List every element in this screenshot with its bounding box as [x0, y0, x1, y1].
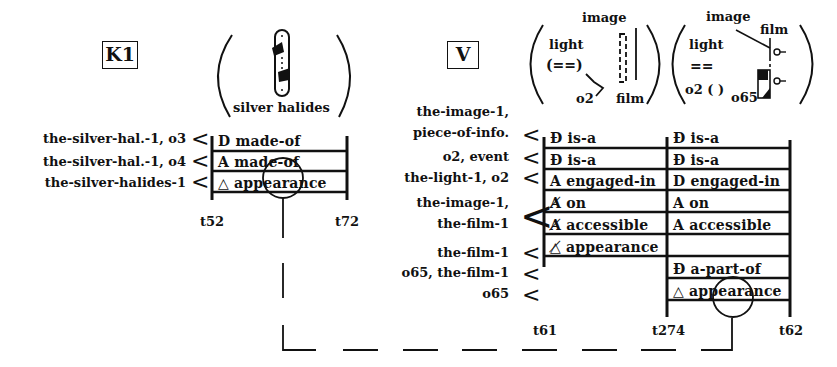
- v-row-label: the-film-1: [437, 216, 509, 231]
- v-row-label: the-light-1, o2: [404, 170, 509, 185]
- v-col2-cell: A on: [673, 195, 709, 211]
- v-link-arrow: <: [522, 244, 540, 262]
- v-link-arrow: <: [522, 265, 540, 283]
- v-row-label: the-image-1,: [416, 195, 509, 210]
- v-pic1-light: light: [549, 37, 583, 52]
- v-row-label: the-film-1: [437, 245, 509, 260]
- v-tick-mid: t274: [652, 323, 685, 338]
- k1-link-arrow: <: [191, 173, 209, 191]
- v-col2-cell: A accessible: [673, 217, 771, 233]
- v-pic1-image: image: [582, 10, 626, 25]
- v-col2-cell: D engaged-in: [673, 173, 780, 189]
- v-col1-cell: A̸ accessible: [550, 217, 648, 233]
- v-pic2-o65: o65: [731, 90, 758, 105]
- v-link-arrow: <: [522, 126, 540, 144]
- k1-link-arrow: <: [191, 152, 209, 170]
- v-col1-cell: △̸ appearance: [550, 239, 659, 255]
- k1-row-label: the-silver-hal.-1, o4: [43, 154, 186, 169]
- v-pic2-beam: ==: [690, 59, 713, 74]
- v-col2-cell: △ appearance: [673, 283, 782, 299]
- k1-cell: A made-of: [218, 154, 299, 170]
- v-row-label: o65: [482, 286, 509, 301]
- v-col1-cell: Ɖ is-a: [550, 152, 596, 168]
- v-col1-cell: A̸ on: [550, 195, 586, 211]
- v-link-arrow-large: <: [520, 198, 554, 234]
- v-pic1-o2: o2: [576, 91, 594, 106]
- v-col2-cell: Ɖ is-a: [673, 130, 719, 146]
- v-row-label: o2, event: [443, 149, 509, 164]
- k1-row-label: the-silver-halides-1: [45, 175, 186, 190]
- v-pic2-image: image: [706, 9, 750, 24]
- v-pic1-film: film: [616, 91, 644, 106]
- v-pic1-beam: (==): [546, 58, 583, 73]
- k1-tick-start: t52: [200, 214, 224, 229]
- k1-tick-end: t72: [335, 214, 359, 229]
- v-col1-cell: Ɖ is-a: [550, 130, 596, 146]
- k1-picture-caption: silver halides: [233, 100, 330, 115]
- k1-link-arrow: <: [191, 130, 209, 148]
- v-link-arrow: <: [522, 286, 540, 304]
- v-link-arrow: <: [522, 169, 540, 187]
- v-row-label: o65, the-film-1: [401, 265, 509, 280]
- k1-row-label: the-silver-hal.-1, o3: [43, 131, 186, 146]
- v-label-box: V: [447, 41, 479, 69]
- k1-cell: △ appearance: [218, 175, 327, 191]
- k1-cell: D made-of: [218, 133, 301, 149]
- v-row-label: piece-of-info.: [413, 125, 509, 140]
- v-pic2-light: light: [689, 37, 723, 52]
- v-col1-cell: A engaged-in: [550, 173, 656, 189]
- v-tick-end: t62: [779, 323, 803, 338]
- v-row-label: the-image-1,: [416, 104, 509, 119]
- v-col2-cell: Ɖ a-part-of: [673, 261, 761, 277]
- v-tick-start: t61: [533, 323, 557, 338]
- v-pic2-o2: o2 ( ): [685, 82, 724, 97]
- v-col2-cell: Ɖ is-a: [673, 152, 719, 168]
- k1-label-box: K1: [102, 41, 138, 69]
- v-pic2-film: film: [760, 22, 788, 37]
